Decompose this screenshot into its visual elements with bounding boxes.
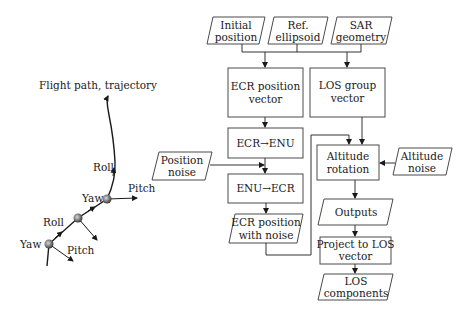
trajectory-curve xyxy=(47,96,115,266)
svg-text:Altitude: Altitude xyxy=(326,150,369,162)
process-enu-to-ecr: ENU→ECR xyxy=(228,174,303,203)
yaw-label-mid: Yaw xyxy=(81,192,103,204)
svg-text:Outputs: Outputs xyxy=(335,206,378,218)
svg-text:Position: Position xyxy=(161,154,204,166)
process-project-to-los: Project to LOS vector xyxy=(317,237,395,264)
svg-text:ellipsoid: ellipsoid xyxy=(276,31,321,43)
svg-text:vector: vector xyxy=(248,93,284,105)
roll-label-top: Roll xyxy=(93,161,115,173)
trajectory-node-2 xyxy=(74,214,83,223)
input-initial-position: Initial position xyxy=(207,17,265,44)
pitch-vector-top xyxy=(107,198,137,199)
input-position-noise: Position noise xyxy=(152,152,212,180)
trajectory-node-1 xyxy=(45,240,54,249)
flight-path-title: Flight path, trajectory xyxy=(39,79,157,91)
flowchart-canvas: Flight path, trajectory Roll Yaw Pitch R… xyxy=(0,0,474,315)
process-ecr-position-vector: ECR position vector xyxy=(228,68,303,117)
input-ref-ellipsoid: Ref. ellipsoid xyxy=(268,17,328,44)
svg-text:components: components xyxy=(324,287,389,299)
svg-text:geometry: geometry xyxy=(336,31,387,43)
roll-arrow-bottom xyxy=(55,232,62,238)
data-ecr-position-with-noise: ECR position with noise xyxy=(229,214,303,243)
svg-text:Project to LOS: Project to LOS xyxy=(317,238,395,250)
trajectory-node-3 xyxy=(103,195,112,204)
data-los-components: LOS components xyxy=(318,274,393,300)
svg-text:ECR→ENU: ECR→ENU xyxy=(236,137,294,149)
svg-text:vector: vector xyxy=(330,92,366,104)
flight-path-panel: Flight path, trajectory Roll Yaw Pitch R… xyxy=(19,79,157,266)
svg-text:noise: noise xyxy=(168,166,196,178)
svg-text:ECR position: ECR position xyxy=(231,80,301,92)
svg-text:ECR position: ECR position xyxy=(231,216,301,228)
svg-text:SAR: SAR xyxy=(350,19,374,31)
process-ecr-to-enu: ECR→ENU xyxy=(228,128,303,158)
svg-text:vector: vector xyxy=(338,250,374,262)
svg-text:Altitude: Altitude xyxy=(400,150,443,162)
svg-text:noise: noise xyxy=(408,162,436,174)
pitch-label-mid: Pitch xyxy=(128,182,156,194)
svg-text:ENU→ECR: ENU→ECR xyxy=(236,182,295,194)
process-los-group-vector: LOS group vector xyxy=(310,68,385,117)
roll-label-bottom: Roll xyxy=(43,216,65,228)
svg-text:LOS: LOS xyxy=(345,275,368,287)
process-altitude-rotation: Altitude rotation xyxy=(317,145,379,180)
pitch-label-bottom: Pitch xyxy=(67,244,95,256)
svg-text:position: position xyxy=(215,31,258,43)
input-altitude-noise: Altitude noise xyxy=(393,148,452,175)
yaw-label-bottom: Yaw xyxy=(19,238,41,250)
svg-text:Ref.: Ref. xyxy=(288,19,309,31)
input-sar-geometry: SAR geometry xyxy=(331,17,392,44)
data-outputs: Outputs xyxy=(318,199,393,225)
svg-text:Initial: Initial xyxy=(220,19,252,31)
roll-arrow-mid xyxy=(88,207,95,211)
svg-text:LOS group: LOS group xyxy=(319,79,377,91)
svg-text:with noise: with noise xyxy=(239,229,294,241)
input-bus-line xyxy=(242,44,361,52)
svg-text:rotation: rotation xyxy=(327,163,370,175)
